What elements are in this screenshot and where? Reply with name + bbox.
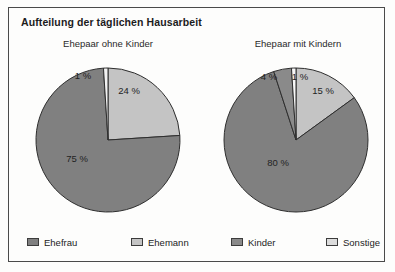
pie-left-slice-ehemann — [108, 68, 180, 140]
legend-swatch-kinder — [231, 238, 243, 246]
pie-chart-right: 15 % 80 % 4 % 1 % — [222, 66, 370, 214]
pie-right-label-4: 4 % — [261, 71, 277, 82]
chart-figure: Aufteilung der täglichen Hausarbeit Ehep… — [0, 0, 395, 272]
pie-right-label-15: 15 % — [312, 85, 334, 96]
pie-chart-left: 24 % 75 % 1 % — [34, 66, 182, 214]
legend-item-ehefrau[interactable]: Ehefrau — [27, 236, 77, 248]
legend-label-sonstige: Sonstige — [343, 237, 380, 248]
legend-item-sonstige[interactable]: Sonstige — [326, 236, 380, 248]
legend-swatch-sonstige — [326, 238, 338, 246]
page-title: Aufteilung der täglichen Hausarbeit — [21, 16, 202, 28]
pie-left-svg — [34, 66, 182, 214]
pie-right-svg — [222, 66, 370, 214]
legend-swatch-ehefrau — [27, 238, 39, 246]
panel-subtitle-left: Ehepaar ohne Kinder — [63, 38, 153, 49]
legend-item-ehemann[interactable]: Ehemann — [131, 236, 189, 248]
pie-right-label-80: 80 % — [267, 157, 289, 168]
legend-label-ehefrau: Ehefrau — [44, 237, 77, 248]
pie-right-label-1: 1 % — [292, 71, 308, 82]
legend-swatch-ehemann — [131, 238, 143, 246]
pie-left-label-75: 75 % — [66, 153, 88, 164]
pie-left-label-24: 24 % — [118, 85, 140, 96]
legend-label-kinder: Kinder — [248, 237, 275, 248]
legend-item-kinder[interactable]: Kinder — [231, 236, 275, 248]
panel-subtitle-right: Ehepaar mit Kindern — [255, 38, 342, 49]
pie-left-label-1: 1 % — [75, 70, 91, 81]
legend-label-ehemann: Ehemann — [148, 237, 189, 248]
